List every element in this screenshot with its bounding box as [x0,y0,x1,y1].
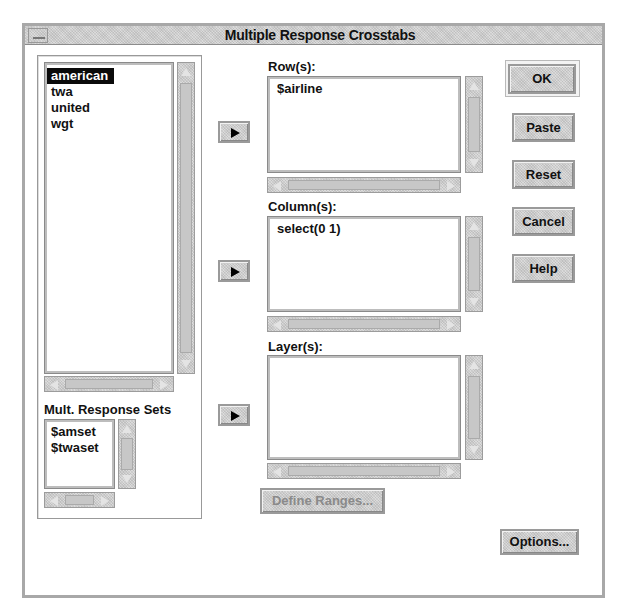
ok-label: OK [510,66,574,92]
paste-label: Paste [514,115,573,140]
move-to-rows-button[interactable] [218,121,250,143]
sets-list-hscrollbar[interactable] [44,492,115,508]
scroll-left-icon[interactable] [50,496,58,506]
cancel-label: Cancel [514,209,573,234]
scroll-down-icon[interactable] [181,360,191,368]
scroll-thumb[interactable] [468,97,480,152]
source-variable-list[interactable]: american twa united wgt [44,62,174,374]
layers-label: Layer(s): [268,339,323,354]
scroll-left-icon[interactable] [273,467,281,477]
set-twaset[interactable]: $twaset [47,440,112,456]
scroll-left-icon[interactable] [273,320,281,330]
layers-list[interactable] [267,355,461,460]
source-list-vscrollbar[interactable] [177,62,195,374]
paste-button[interactable]: Paste [512,113,575,142]
scroll-thumb[interactable] [468,376,480,439]
scroll-down-icon[interactable] [469,159,479,167]
source-list-hscrollbar[interactable] [44,376,174,392]
reset-button[interactable]: Reset [512,160,575,189]
move-to-layers-button[interactable] [218,404,250,426]
scroll-right-icon[interactable] [160,380,168,390]
help-label: Help [514,256,573,281]
window-menu-icon[interactable] [28,28,48,43]
rows-label: Row(s): [268,59,316,74]
mult-response-sets-label: Mult. Response Sets [44,402,171,417]
rows-vscrollbar[interactable] [465,76,483,173]
variable-wgt[interactable]: wgt [47,116,171,132]
define-ranges-button[interactable]: Define Ranges... [260,488,385,514]
options-label: Options... [502,531,577,553]
columns-hscrollbar[interactable] [267,316,461,332]
scroll-up-icon[interactable] [469,82,479,90]
cancel-button[interactable]: Cancel [512,207,575,236]
scroll-thumb[interactable] [65,495,94,505]
scroll-up-icon[interactable] [181,68,191,76]
scroll-down-icon[interactable] [469,298,479,306]
options-button[interactable]: Options... [500,529,579,555]
list-item[interactable]: american [47,68,171,84]
scroll-down-icon[interactable] [122,475,132,483]
variable-twa[interactable]: twa [47,84,171,100]
right-arrow-icon [231,128,240,138]
reset-label: Reset [514,162,573,187]
sets-list-vscrollbar[interactable] [118,419,136,489]
columns-vscrollbar[interactable] [465,216,483,312]
dialog-title: Multiple Response Crosstabs [60,27,580,44]
rows-hscrollbar[interactable] [267,177,461,193]
scroll-thumb[interactable] [180,83,192,353]
variable-united[interactable]: united [47,100,171,116]
column-item-select[interactable]: select(0 1) [273,221,458,237]
scroll-thumb[interactable] [65,379,153,389]
layers-hscrollbar[interactable] [267,463,461,479]
row-item-airline[interactable]: $airline [273,81,458,97]
scroll-up-icon[interactable] [469,361,479,369]
define-ranges-label: Define Ranges... [262,490,383,512]
scroll-left-icon[interactable] [273,181,281,191]
variable-american[interactable]: american [47,68,114,84]
move-to-columns-button[interactable] [218,260,250,282]
scroll-down-icon[interactable] [469,446,479,454]
scroll-right-icon[interactable] [447,181,455,191]
rows-list[interactable]: $airline [267,76,461,173]
scroll-thumb[interactable] [288,319,440,329]
mult-response-sets-list[interactable]: $amset $twaset [44,419,115,489]
right-arrow-icon [231,267,240,277]
help-button[interactable]: Help [512,254,575,283]
right-arrow-icon [231,411,240,421]
layers-vscrollbar[interactable] [465,355,483,460]
set-amset[interactable]: $amset [47,424,112,440]
scroll-up-icon[interactable] [469,222,479,230]
scroll-thumb[interactable] [288,180,440,190]
scroll-right-icon[interactable] [101,496,109,506]
scroll-thumb[interactable] [288,466,440,476]
columns-label: Column(s): [268,199,337,214]
scroll-right-icon[interactable] [447,320,455,330]
scroll-left-icon[interactable] [50,380,58,390]
scroll-thumb[interactable] [468,237,480,291]
scroll-thumb[interactable] [121,438,133,470]
scroll-right-icon[interactable] [447,467,455,477]
scroll-up-icon[interactable] [122,425,132,433]
ok-button[interactable]: OK [508,64,576,94]
columns-list[interactable]: select(0 1) [267,216,461,312]
